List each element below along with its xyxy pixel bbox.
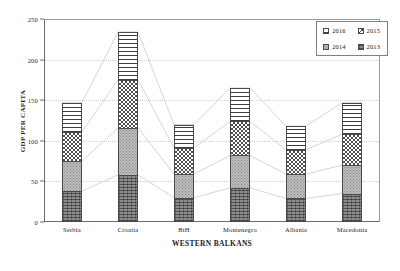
- bar-segment-2014[interactable]: [342, 165, 362, 193]
- bar-segment-2015[interactable]: [62, 132, 82, 161]
- y-tick-label: 50: [31, 178, 38, 185]
- bar-segment-2013[interactable]: [62, 191, 82, 222]
- bar-segment-2015[interactable]: [118, 80, 138, 128]
- bar-segment-2016[interactable]: [342, 103, 362, 135]
- bar-segment-2014[interactable]: [230, 155, 250, 187]
- y-tick-label: 250: [28, 16, 38, 23]
- bar-segment-2016[interactable]: [230, 88, 250, 121]
- legend-swatch-icon: [358, 28, 364, 34]
- legend-label: 2015: [367, 27, 380, 34]
- legend-item-2015[interactable]: 2015: [358, 27, 380, 34]
- chart-container: GDP PER CAPITA 050100150200250 SerbiaCro…: [0, 0, 400, 271]
- legend-swatch-icon: [323, 44, 329, 50]
- bar-segment-2013[interactable]: [118, 175, 138, 222]
- stacked-bar[interactable]: [230, 88, 250, 222]
- bar-segment-2015[interactable]: [174, 148, 194, 174]
- bar-slot: [44, 19, 100, 222]
- bar-segment-2013[interactable]: [342, 194, 362, 222]
- legend-item-2016[interactable]: 2016: [323, 27, 345, 34]
- legend-label: 2014: [332, 43, 345, 50]
- bar-segment-2013[interactable]: [174, 198, 194, 222]
- legend: 2016201520142013: [316, 21, 388, 56]
- stacked-bar[interactable]: [342, 103, 362, 222]
- bar-segment-2016[interactable]: [62, 103, 82, 132]
- y-axis-title: GDP PER CAPITA: [19, 46, 27, 196]
- y-tick-label: 0: [35, 219, 38, 226]
- legend-item-2014[interactable]: 2014: [323, 43, 345, 50]
- y-tick-label: 150: [28, 97, 38, 104]
- stacked-bar[interactable]: [118, 32, 138, 222]
- legend-swatch-icon: [358, 44, 364, 50]
- legend-swatch-icon: [323, 28, 329, 34]
- bar-segment-2014[interactable]: [62, 161, 82, 191]
- bar-segment-2016[interactable]: [118, 32, 138, 80]
- bar-slot: [212, 19, 268, 222]
- bar-segment-2013[interactable]: [286, 198, 306, 222]
- bar-segment-2015[interactable]: [286, 150, 306, 174]
- x-axis-title: WESTERN BALKANS: [44, 239, 380, 248]
- legend-grid: 2016201520142013: [323, 27, 380, 50]
- bar-slot: [100, 19, 156, 222]
- y-tick-label: 200: [28, 56, 38, 63]
- bar-segment-2014[interactable]: [118, 128, 138, 175]
- stacked-bar[interactable]: [286, 126, 306, 222]
- stacked-bar[interactable]: [174, 125, 194, 222]
- bar-segment-2016[interactable]: [174, 125, 194, 149]
- y-tick-label: 100: [28, 137, 38, 144]
- bar-segment-2014[interactable]: [174, 174, 194, 198]
- bar-segment-2013[interactable]: [230, 188, 250, 222]
- y-axis: GDP PER CAPITA 050100150200250: [0, 19, 44, 222]
- bar-segment-2016[interactable]: [286, 126, 306, 150]
- bar-segment-2014[interactable]: [286, 174, 306, 198]
- stacked-bar[interactable]: [62, 103, 82, 222]
- bar-segment-2015[interactable]: [230, 121, 250, 155]
- bar-slot: [156, 19, 212, 222]
- legend-label: 2016: [332, 27, 345, 34]
- legend-label: 2013: [367, 43, 380, 50]
- legend-item-2013[interactable]: 2013: [358, 43, 380, 50]
- bar-segment-2015[interactable]: [342, 134, 362, 165]
